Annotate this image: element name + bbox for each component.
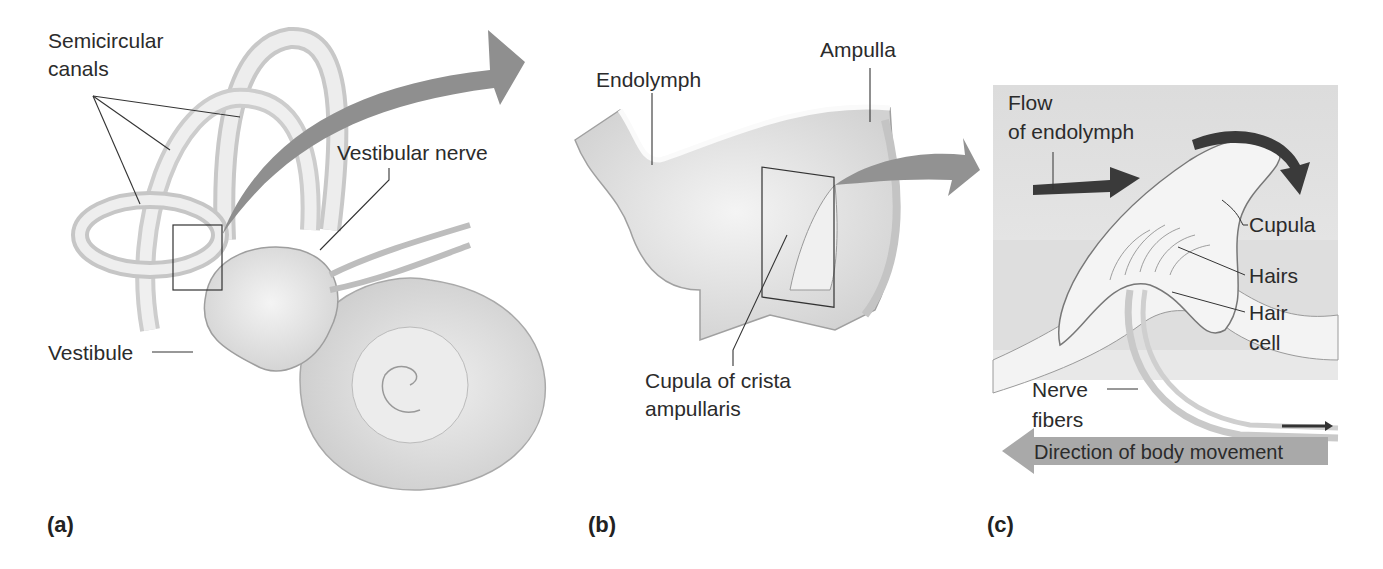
label-cupula-crista-2: ampullaris <box>645 396 741 421</box>
label-hair-cell-2: cell <box>1249 330 1281 355</box>
label-hair-cell-1: Hair <box>1249 300 1288 325</box>
ampulla-diagram <box>575 68 980 366</box>
label-cupula: Cupula <box>1249 212 1316 237</box>
label-semicircular-canals-1: Semicircular <box>48 28 164 53</box>
label-direction-body-movement: Direction of body movement <box>1034 440 1283 465</box>
label-nerve-fibers-1: Nerve <box>1032 377 1088 402</box>
label-nerve-fibers-2: fibers <box>1032 407 1083 432</box>
panel-letter-a: (a) <box>47 512 74 538</box>
label-vestibule: Vestibule <box>48 340 133 365</box>
label-semicircular-canals-2: canals <box>48 56 109 81</box>
label-cupula-crista-1: Cupula of crista <box>645 368 791 393</box>
panel-letter-c: (c) <box>987 512 1014 538</box>
label-flow-1: Flow <box>1008 90 1052 115</box>
label-ampulla: Ampulla <box>820 37 896 62</box>
label-vestibular-nerve: Vestibular nerve <box>337 140 488 165</box>
label-endolymph: Endolymph <box>596 67 701 92</box>
inner-ear-diagram <box>80 30 545 490</box>
panel-letter-b: (b) <box>588 512 616 538</box>
label-hairs: Hairs <box>1249 263 1298 288</box>
label-flow-2: of endolymph <box>1008 119 1134 144</box>
